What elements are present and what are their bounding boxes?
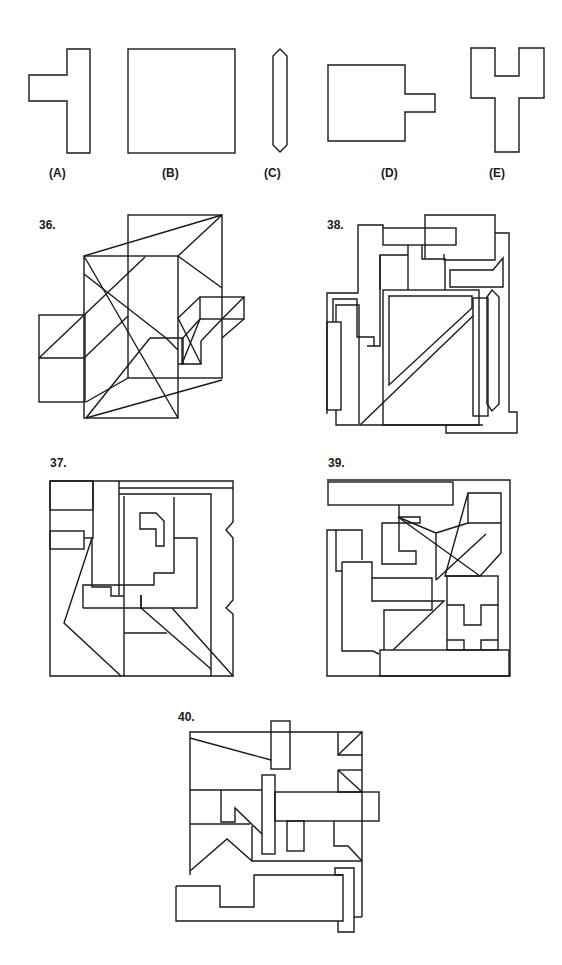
option-b-shape [128, 49, 235, 153]
option-c-shape [273, 49, 287, 152]
question-37-label: 37. [50, 456, 67, 470]
option-d-shape [328, 65, 435, 141]
question-39-label: 39. [328, 456, 345, 470]
question-36-label: 36. [39, 218, 56, 232]
option-b-label: (B) [162, 166, 179, 180]
option-d-label: (D) [381, 166, 398, 180]
figure-canvas [0, 0, 562, 965]
question-38-label: 38. [327, 218, 344, 232]
figure-36 [39, 215, 244, 418]
question-40-label: 40. [178, 710, 195, 724]
option-c-label: (C) [264, 166, 281, 180]
option-e-label: (E) [489, 166, 505, 180]
figure-39 [327, 480, 510, 676]
option-e-shape [471, 48, 544, 152]
figure-40 [176, 721, 379, 932]
option-a-label: (A) [49, 166, 66, 180]
figure-37 [50, 481, 233, 676]
figure-38 [327, 215, 517, 433]
option-a-shape [29, 49, 90, 153]
